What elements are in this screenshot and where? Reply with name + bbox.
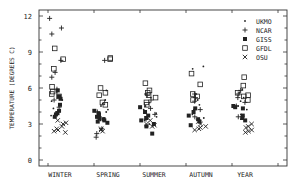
ukmo-data-point [246, 109, 248, 111]
y-tick-3: 3 [28, 121, 32, 129]
gfdl-data-point [108, 56, 113, 61]
gfdl-data-point [97, 93, 102, 98]
ukmo-data-point [199, 104, 201, 106]
gfdl-data-point [143, 81, 148, 86]
y-tick-6: 6 [28, 85, 32, 93]
ukmo-data-point [192, 68, 194, 70]
x-label-winter: WINTER [48, 171, 72, 179]
giss-data-point [189, 123, 193, 127]
giss-data-point [150, 132, 154, 136]
osu-data-point [197, 127, 201, 131]
giss-data-point [233, 105, 237, 109]
ukmo-data-point [155, 112, 157, 114]
ncar-data-point [52, 98, 57, 103]
giss-data-point [243, 118, 247, 122]
giss-data-point [192, 110, 196, 114]
ncar-data-point [236, 114, 241, 119]
ukmo-data-point [53, 108, 55, 110]
gfdl-data-point [241, 83, 246, 88]
gfdl-data-point [242, 75, 247, 80]
y-tick-0: 0 [28, 157, 32, 165]
ncar-data-point [59, 26, 64, 31]
scatter-chart: TEMPERATURE (DEGREES C) 0 3 6 9 12 WINTE… [0, 0, 299, 189]
osu-data-point [52, 129, 56, 133]
giss-data-point [187, 114, 191, 118]
y-tick-12: 12 [24, 13, 32, 21]
ncar-data-point [102, 58, 107, 63]
filled-square-marker-icon [243, 37, 247, 41]
giss-data-point [96, 120, 100, 124]
legend-item-osu: OSU [243, 54, 268, 62]
giss-data-point [139, 118, 143, 122]
gfdl-data-point [52, 46, 57, 51]
ncar-data-point [198, 107, 203, 112]
y-tick-labels: 0 3 6 9 12 [24, 13, 32, 165]
ncar-data-point [192, 99, 197, 104]
legend-label: GISS [256, 36, 272, 44]
legend-item-ncar: NCAR [243, 27, 272, 35]
ukmo-data-point [240, 100, 242, 102]
x-label-year: YEAR [237, 171, 253, 179]
ukmo-data-point [202, 66, 204, 68]
legend-label: NCAR [256, 27, 272, 35]
osu-data-point [203, 124, 207, 128]
legend-item-giss: GISS [243, 36, 272, 44]
gfdl-data-point [103, 91, 108, 96]
x-label-autumn: AUTUMN [189, 171, 213, 179]
x-marker-icon [243, 55, 247, 59]
osu-data-point [56, 118, 60, 122]
ukmo-data-point [107, 109, 109, 111]
legend-label: UKMO [256, 18, 272, 26]
ncar-data-point [49, 32, 54, 37]
ukmo-data-point [197, 99, 199, 101]
giss-data-point [105, 121, 109, 125]
giss-data-point [138, 105, 142, 109]
plot-frame [39, 10, 287, 166]
giss-data-point [193, 106, 197, 110]
ncar-data-point [235, 95, 240, 100]
gfdl-data-point [108, 57, 113, 62]
ukmo-data-point [51, 100, 53, 102]
ukmo-data-point [156, 116, 158, 118]
gfdl-data-point [189, 71, 194, 76]
ncar-data-point [53, 70, 58, 75]
legend-item-gfdl: GFDL [243, 45, 272, 53]
x-category-labels: WINTER SPRING SUMMER AUTUMN YEAR [48, 171, 253, 179]
ukmo-data-point [241, 88, 243, 90]
osu-data-point [56, 128, 60, 132]
ncar-data-point [94, 135, 99, 140]
data-points [47, 16, 254, 140]
ukmo-data-point [203, 117, 205, 119]
osu-data-point [192, 128, 196, 132]
y-tick-9: 9 [28, 49, 32, 57]
ukmo-data-point [105, 111, 107, 113]
ukmo-data-point [100, 105, 102, 107]
open-square-marker-icon [243, 46, 248, 51]
legend: UKMO NCAR GISS GFDL OSU [243, 18, 272, 62]
giss-data-point [56, 88, 60, 92]
gfdl-data-point [198, 82, 203, 87]
gfdl-data-point [153, 95, 158, 100]
legend-item-ukmo: UKMO [244, 18, 272, 26]
gfdl-data-point [50, 85, 55, 90]
gfdl-data-point [98, 86, 103, 91]
x-label-summer: SUMMER [142, 171, 166, 179]
giss-data-point [143, 110, 147, 114]
giss-data-point [144, 116, 148, 120]
legend-label: OSU [256, 54, 268, 62]
ncar-data-point [47, 16, 52, 21]
ncar-data-point [49, 75, 54, 80]
y-axis-title: TEMPERATURE (DEGREES C) [8, 46, 15, 129]
giss-data-point [92, 109, 96, 113]
giss-data-point [58, 103, 62, 107]
osu-data-point [63, 130, 67, 134]
y-ticks [39, 16, 287, 160]
giss-data-point [98, 116, 102, 120]
x-label-spring: SPRING [96, 171, 120, 179]
dot-marker-icon [244, 20, 246, 22]
ukmo-data-point [50, 115, 52, 117]
plus-marker-icon [243, 28, 248, 33]
legend-label: GFDL [256, 45, 272, 53]
giss-data-point [241, 106, 245, 110]
ukmo-data-point [243, 97, 245, 99]
